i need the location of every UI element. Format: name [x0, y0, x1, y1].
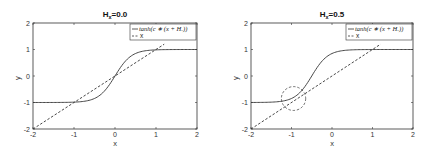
- x-tick-label: 2: [195, 131, 199, 138]
- y-tick-label: -2: [242, 126, 248, 133]
- x-tick-label: -1: [71, 131, 77, 138]
- y-axis-label: y: [231, 76, 240, 80]
- x-tick-label: -2: [30, 131, 36, 138]
- y-tick-label: -2: [24, 126, 30, 133]
- x-axis-label: x: [330, 139, 334, 148]
- y-tick-label: 2: [26, 20, 30, 27]
- x-tick-label: -1: [288, 131, 294, 138]
- x-tick-label: -2: [248, 131, 254, 138]
- legend-item-tanh: tanh(c ∗ (x + Hₓ)): [139, 25, 187, 33]
- y-tick-label: 0: [244, 73, 248, 80]
- subplot-hx-0: -2-1012210-1-2xyHx=0.0tanh(c ∗ (x + Hₓ))…: [13, 10, 199, 148]
- subplot-hx-0-5: -2-1012210-1-2xyHx=0.5tanh(c ∗ (x + Hₓ))…: [231, 10, 415, 148]
- y-tick-label: 0: [26, 73, 30, 80]
- y-axis-label: y: [13, 76, 22, 80]
- x-tick-label: 0: [113, 131, 117, 138]
- x-tick-label: 1: [371, 131, 375, 138]
- x-tick-label: 2: [411, 131, 415, 138]
- x-tick-label: 0: [330, 131, 334, 138]
- figure: -2-1012210-1-2xyHx=0.0tanh(c ∗ (x + Hₓ))…: [0, 0, 428, 156]
- chart-title: Hx=0.0: [103, 10, 128, 20]
- y-tick-label: -1: [24, 99, 30, 106]
- x-tick-label: 1: [154, 131, 158, 138]
- y-tick-label: 1: [26, 46, 30, 53]
- legend-item-tanh: tanh(c ∗ (x + Hₓ)): [355, 25, 403, 33]
- chart-title: Hx=0.5: [320, 10, 345, 20]
- y-tick-label: 1: [244, 46, 248, 53]
- y-tick-label: -1: [242, 99, 248, 106]
- x-axis-label: x: [113, 139, 117, 148]
- y-tick-label: 2: [244, 20, 248, 27]
